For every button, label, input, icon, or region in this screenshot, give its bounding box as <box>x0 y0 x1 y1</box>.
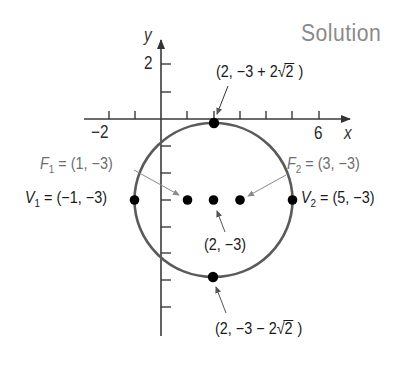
label-top-prefix: (2, −3 + 2 <box>216 63 278 80</box>
point-f2 <box>235 195 245 205</box>
label-v2: V2 = (5, −3) <box>301 189 375 207</box>
label-v2-value: = (5, −3) <box>316 189 374 206</box>
label-top-suffix: ) <box>294 63 303 80</box>
label-center: (2, −3) <box>204 236 246 254</box>
y-tick-label-2: 2 <box>144 53 153 74</box>
arrow-top <box>217 86 228 114</box>
chart-title: Solution <box>301 20 381 47</box>
y-axis-label: y <box>144 25 152 46</box>
label-f1: F1 = (1, −3) <box>40 155 113 173</box>
label-v1: V1 = (−1, −3) <box>25 189 107 207</box>
x-tick-label-6: 6 <box>314 123 323 144</box>
label-top-point: (2, −3 + 2√2 ) <box>216 63 303 81</box>
arrow-f1 <box>134 170 179 195</box>
label-f2-letter: F <box>287 155 296 172</box>
label-v2-letter: V <box>301 189 311 206</box>
point-bottom <box>208 272 218 282</box>
label-f1-letter: F <box>40 155 49 172</box>
arrow-bottom <box>216 287 226 313</box>
point-top <box>209 118 219 128</box>
label-f2-value: = (3, −3) <box>301 155 359 172</box>
label-bottom-suffix: ) <box>293 320 302 337</box>
point-v2 <box>288 195 298 205</box>
point-center <box>209 195 219 205</box>
label-bottom-radicand: 2 <box>284 320 294 336</box>
label-v1-letter: V <box>25 189 35 206</box>
label-top-radicand: 2 <box>285 63 295 79</box>
x-axis-label: x <box>344 123 352 144</box>
point-f1 <box>183 195 193 205</box>
x-axis <box>84 111 350 119</box>
label-v1-value: = (−1, −3) <box>40 189 107 206</box>
label-f2: F2 = (3, −3) <box>287 155 360 173</box>
points <box>130 118 298 282</box>
x-tick-label-neg2: −2 <box>91 122 108 143</box>
label-bottom-point: (2, −3 − 2√2 ) <box>215 320 302 338</box>
label-bottom-prefix: (2, −3 − 2 <box>215 320 277 337</box>
arrow-center <box>217 211 225 232</box>
label-f1-value: = (1, −3) <box>54 155 112 172</box>
ellipse-graph <box>0 0 410 365</box>
arrow-f2 <box>248 175 286 196</box>
point-v1 <box>130 195 140 205</box>
